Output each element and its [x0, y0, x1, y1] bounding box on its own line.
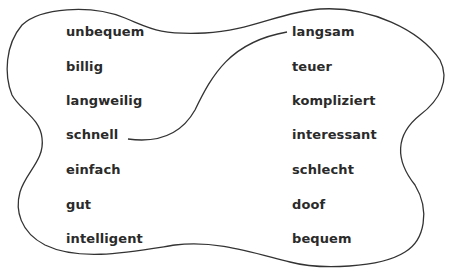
word-left-6[interactable]: gut: [66, 197, 91, 213]
word-right-6[interactable]: doof: [292, 197, 325, 213]
word-right-5[interactable]: schlecht: [292, 162, 354, 178]
word-left-5[interactable]: einfach: [66, 162, 121, 178]
word-left-7[interactable]: intelligent: [66, 231, 143, 247]
word-right-7[interactable]: bequem: [292, 231, 352, 247]
word-left-3[interactable]: langweilig: [66, 93, 142, 109]
word-left-4[interactable]: schnell: [66, 127, 118, 143]
connector-line-schnell-langsam[interactable]: [128, 32, 287, 140]
word-left-1[interactable]: unbequem: [66, 24, 144, 40]
word-right-3[interactable]: kompliziert: [292, 93, 376, 109]
word-right-1[interactable]: langsam: [292, 24, 355, 40]
word-right-2[interactable]: teuer: [292, 59, 332, 75]
word-left-2[interactable]: billig: [66, 59, 103, 75]
word-right-4[interactable]: interessant: [292, 127, 377, 143]
